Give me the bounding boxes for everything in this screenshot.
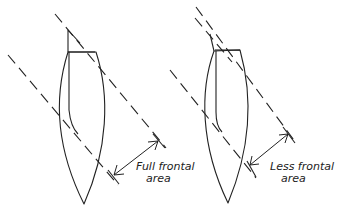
left-figure: Full frontal area (8, 14, 195, 204)
left-bow-post (68, 30, 80, 52)
right-figure: Less frontal area (170, 7, 334, 203)
frontal-area-diagram: Full frontal area Less frontal area (0, 0, 343, 211)
left-keel-line (69, 52, 78, 134)
left-dashed-line-upper (55, 14, 166, 148)
left-label-line2: area (146, 172, 171, 185)
right-keel-line (216, 51, 222, 132)
right-hull-outline (205, 50, 248, 203)
right-dimension-tick-upper (283, 127, 295, 143)
right-dashed-line-upper-2 (195, 18, 232, 62)
left-hull-outline (59, 52, 105, 204)
right-label-line2: area (281, 172, 306, 185)
